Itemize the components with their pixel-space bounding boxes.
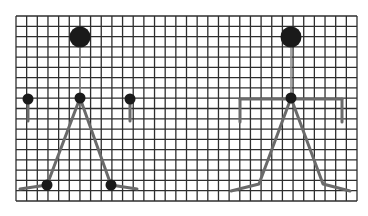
figure-diagram xyxy=(0,0,368,216)
head-dot xyxy=(281,27,302,48)
head-dot xyxy=(70,27,91,48)
foot-joint-dot xyxy=(42,180,53,191)
foot-joint-dot xyxy=(106,180,117,191)
hand-joint-dot xyxy=(125,94,136,105)
hip-joint-dot xyxy=(286,93,297,104)
hip-joint-dot xyxy=(75,93,86,104)
hand-joint-dot xyxy=(23,94,34,105)
